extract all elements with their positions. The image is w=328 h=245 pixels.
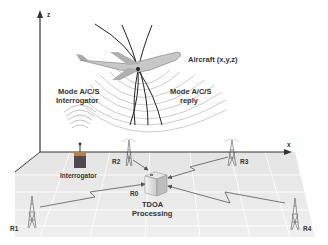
z-axis <box>37 10 43 152</box>
receiver-r2-label: R2 <box>112 158 121 165</box>
tdoa-processor-icon <box>145 172 167 196</box>
interrogator-label: Interrogator <box>60 172 97 180</box>
tdoa-diagram: z x Aircraft (x,y,z) Mode A <box>0 0 328 245</box>
aircraft-icon <box>76 52 181 80</box>
reply-signal-label-2: reply <box>180 96 199 105</box>
ground-plane <box>15 152 315 237</box>
interrogator-device-icon <box>74 143 86 168</box>
aircraft-label: Aircraft (x,y,z) <box>188 55 238 64</box>
receiver-r1-label: R1 <box>10 225 19 232</box>
r0-label: R0 <box>130 190 139 197</box>
x-axis-label: x <box>287 141 291 148</box>
interrogator-signal-label-1: Mode A/C/S <box>58 87 99 96</box>
receiver-r4-label: R4 <box>303 225 312 232</box>
receiver-r3-label: R3 <box>240 158 249 165</box>
z-axis-label: z <box>47 11 51 18</box>
tdoa-label-1: TDOA <box>142 200 164 209</box>
tdoa-label-2: Processing <box>132 209 173 218</box>
interrogator-waves <box>64 105 96 128</box>
reply-signal-label-1: Mode A/C/S <box>170 87 211 96</box>
interrogator-signal-label-2: Interrogator <box>56 96 99 105</box>
